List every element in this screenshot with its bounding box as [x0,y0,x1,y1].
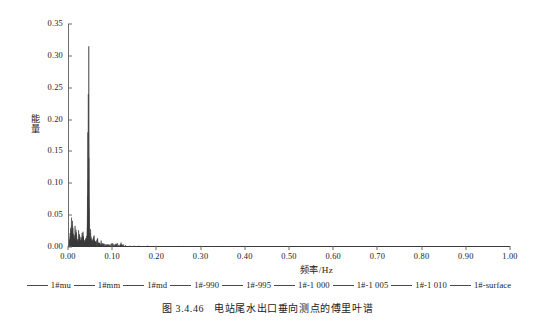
legend-item[interactable]: 1#-1 005 [330,280,389,290]
y-tick-mark [68,119,72,120]
y-tick-label: 0.00 [48,243,63,251]
legend-label: 1#md [147,280,167,290]
x-tick-mark [112,246,113,250]
y-tick-label: 0.05 [48,211,63,219]
spectrum-series [68,158,510,247]
y-tick-label: 0.15 [48,147,63,155]
y-tick-mark [68,55,72,56]
spectrum-series [68,196,510,247]
x-tick-mark [510,246,511,250]
y-tick-mark [68,247,72,248]
x-tick-label: 0.70 [370,253,385,261]
legend-label: 1#-surface [474,280,511,290]
spectrum-series [68,225,510,247]
spectrum-series [68,209,510,247]
spectrum-series [68,46,510,247]
legend-line-swatch [274,285,295,286]
legend-item[interactable]: 1#-995 [219,280,271,290]
y-tick-label: 0.25 [48,84,63,92]
legend-label: 1#-990 [194,280,219,290]
y-tick-label: 0.10 [48,179,63,187]
legend-line-swatch [123,285,144,286]
legend-item[interactable]: 1#md [120,280,167,290]
x-tick-label: 0.60 [325,253,340,261]
spectrum-series [68,180,510,247]
x-tick-label: 0.00 [60,253,75,261]
y-tick-mark [68,215,72,216]
legend-line-swatch [333,285,354,286]
legend-label: 1#mu [51,280,71,290]
y-tick-label: 0.35 [48,20,63,28]
x-tick-mark [421,246,422,250]
y-tick-mark [68,24,72,25]
x-tick-label: 0.40 [237,253,252,261]
caption-text: 电站尾水出口垂向测点的傅里叶谱 [214,303,373,314]
y-tick-mark [68,183,72,184]
x-tick-label: 0.80 [414,253,429,261]
y-tick-label: 0.30 [48,52,63,60]
x-axis-title: 频率/Hz [300,262,333,276]
y-tick-mark [68,151,72,152]
x-tick-mark [68,246,69,250]
x-tick-label: 0.10 [104,253,119,261]
x-tick-label: 0.90 [458,253,473,261]
y-tick-label: 0.20 [48,115,63,123]
x-tick-mark [465,246,466,250]
legend-line-swatch [222,285,243,286]
x-tick-mark [200,246,201,250]
legend-item[interactable]: 1#mu [24,280,71,290]
plot-area: 0.000.050.100.150.200.250.300.35 0.000.1… [68,24,510,247]
legend-label: 1#-1 010 [415,280,447,290]
x-tick-label: 0.50 [281,253,296,261]
x-tick-mark [333,246,334,250]
spectrum-lines [68,24,510,247]
x-tick-mark [289,246,290,250]
legend-line-swatch [74,285,95,286]
spectrum-series [68,94,510,247]
legend-item[interactable]: 1#-990 [167,280,219,290]
legend-label: 1#-995 [246,280,271,290]
x-tick-mark [156,246,157,250]
legend-item[interactable]: 1#-1 000 [271,280,330,290]
chart-legend: 1#mu1#mm1#md1#-9901#-9951#-1 0001#-1 005… [0,280,535,290]
caption-number: 图 3.4.46 [162,303,204,314]
legend-line-swatch [170,285,191,286]
figure-container: 能量 0.000.050.100.150.200.250.300.35 0.00… [0,0,535,329]
figure-caption: 图 3.4.46电站尾水出口垂向测点的傅里叶谱 [0,300,535,315]
x-tick-mark [244,246,245,250]
x-tick-label: 0.20 [149,253,164,261]
legend-line-swatch [27,285,48,286]
legend-item[interactable]: 1#-1 010 [388,280,447,290]
legend-item[interactable]: 1#-surface [447,280,511,290]
legend-item[interactable]: 1#mm [71,280,120,290]
y-axis-title: 能量 [28,114,42,134]
legend-line-swatch [391,285,412,286]
legend-label: 1#-1 000 [298,280,330,290]
legend-line-swatch [450,285,471,286]
x-tick-label: 0.30 [193,253,208,261]
spectrum-series [68,132,510,247]
y-tick-mark [68,87,72,88]
x-tick-mark [377,246,378,250]
legend-label: 1#mm [98,280,120,290]
spectrum-series [68,218,510,247]
legend-label: 1#-1 005 [357,280,389,290]
x-tick-label: 1.00 [502,253,517,261]
